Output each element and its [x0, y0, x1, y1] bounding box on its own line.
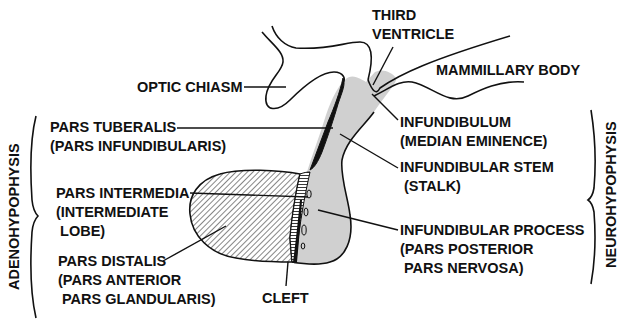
label-neurohypophysis: NEUROHYPOPHYSIS [603, 121, 619, 268]
label-adenohypophysis: ADENOHYPOPHYSIS [6, 143, 22, 290]
neurohypophysis-shape [292, 70, 396, 264]
neurohypophysis-brace [588, 110, 595, 284]
label-mammillary-body: MAMMILLARY BODY [436, 61, 580, 80]
leader-infundibular-stem [340, 134, 398, 168]
label-pars-tuberalis: PARS TUBERALIS (PARS INFUNDIBULARIS) [50, 118, 226, 156]
label-infundibular-process: INFUNDIBULAR PROCESS (PARS POSTERIOR PAR… [400, 221, 584, 278]
label-infundibular-stem: INFUNDIBULAR STEM (STALK) [400, 158, 554, 196]
adenohypophysis-brace [31, 116, 38, 318]
pars-distalis-shape [190, 170, 300, 262]
leader-cleft [286, 262, 288, 286]
label-infundibulum: INFUNDIBULUM (MEDIAN EMINENCE) [400, 113, 547, 151]
label-pars-intermedia: PARS INTERMEDIA (INTERMEDIATE LOBE) [56, 184, 189, 241]
label-pars-distalis: PARS DISTALIS (PARS ANTERIOR PARS GLANDU… [58, 252, 216, 309]
label-third-ventricle: THIRD VENTRICLE [372, 6, 454, 44]
label-optic-chiasm: OPTIC CHIASM [137, 78, 243, 97]
label-cleft: CLEFT [262, 289, 309, 308]
